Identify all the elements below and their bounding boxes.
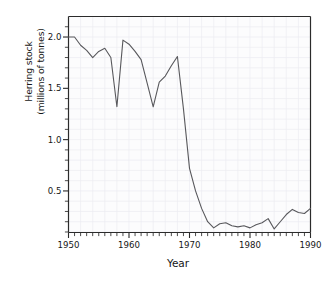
y-tick-label-1.5: 1.5 <box>31 83 62 93</box>
herring-stock-chart: Herring stock (millions of tonnes) Year … <box>0 0 334 281</box>
y-axis-title-line1: Herring stock <box>23 0 35 152</box>
y-tick-label-1.0: 1.0 <box>31 135 62 145</box>
x-tick-label-1960: 1960 <box>118 240 140 250</box>
x-axis-title: Year <box>0 257 334 269</box>
y-tick-label-2.0: 2.0 <box>31 32 62 42</box>
x-tick-label-1970: 1970 <box>179 240 201 250</box>
x-tick-label-1980: 1980 <box>239 240 261 250</box>
x-tick-label-1950: 1950 <box>58 240 80 250</box>
y-axis-title: Herring stock (millions of tonnes) <box>23 0 46 152</box>
y-tick-label-0.5: 0.5 <box>31 186 62 196</box>
x-axis-title-text: Year <box>167 257 189 269</box>
y-axis-title-line2: (millions of tonnes) <box>34 0 46 152</box>
x-tick-label-1990: 1990 <box>300 240 322 250</box>
